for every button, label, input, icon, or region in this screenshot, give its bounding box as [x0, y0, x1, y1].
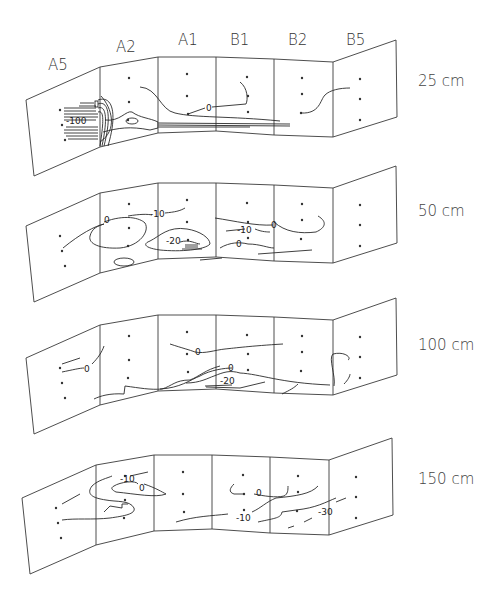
contour-label: 0 — [104, 215, 110, 225]
strip-50cm: 50 cm 0 -10 -20 -10 0 0 — [26, 166, 465, 302]
column-labels: A5 A2 A1 B1 B2 B5 — [48, 31, 365, 74]
contour-label: 0 — [236, 239, 242, 249]
contour-label: -100 — [66, 116, 87, 126]
contour-label: 0 — [195, 347, 201, 357]
contour-label: -20 — [166, 236, 181, 246]
contour-label: -10 — [236, 513, 251, 523]
contour-label: 0 — [206, 103, 212, 113]
column-label-a1: A1 — [178, 31, 198, 49]
column-label-a5: A5 — [48, 56, 68, 74]
contours — [63, 208, 324, 266]
contour-label: 0 — [256, 488, 262, 498]
contour-label: -30 — [318, 507, 333, 517]
depth-label: 150 cm — [418, 470, 474, 488]
depth-label: 100 cm — [418, 336, 474, 354]
depth-label: 25 cm — [418, 72, 465, 90]
contour-label: -10 — [150, 209, 165, 219]
contour-label: 0 — [84, 364, 90, 374]
column-label-a2: A2 — [116, 38, 136, 56]
contour-label: -10 — [237, 225, 252, 235]
contour-label: -10 — [120, 474, 135, 484]
column-label-b5: B5 — [346, 31, 365, 49]
contours — [62, 344, 350, 399]
contour-label: 0 — [271, 220, 277, 230]
contour-label: -20 — [220, 376, 235, 386]
strip-25cm: 25 cm -100 0 — [26, 40, 465, 176]
contour-diagram: A5 A2 A1 B1 B2 B5 25 cm -100 — [0, 0, 494, 601]
contour-label: 0 — [139, 483, 145, 493]
strip-150cm: 150 cm -10 0 0 -10 -30 — [22, 438, 474, 574]
depth-label: 50 cm — [418, 202, 465, 220]
contours — [62, 472, 346, 528]
contours — [100, 82, 350, 142]
column-label-b2: B2 — [288, 31, 307, 49]
contour-label: 0 — [228, 363, 234, 373]
column-label-b1: B1 — [230, 31, 249, 49]
strip-100cm: 100 cm 0 0 0 -20 — [26, 298, 474, 434]
